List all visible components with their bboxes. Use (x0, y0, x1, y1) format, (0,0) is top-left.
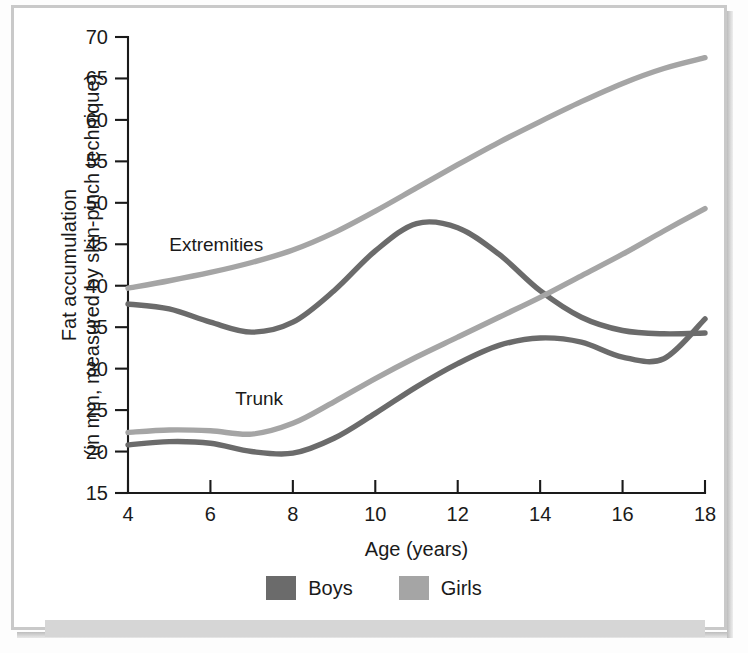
x-tick-label-16: 16 (611, 503, 633, 525)
legend-swatch-boys (266, 576, 296, 600)
legend-swatch-girls (399, 576, 429, 600)
series-curve-boys-trunk (128, 319, 705, 454)
y-tick-label-15: 15 (86, 482, 108, 504)
y-axis-title-line1: Fat accumulation (58, 189, 80, 341)
x-tick-label-14: 14 (529, 503, 551, 525)
bottom-gray-band (45, 620, 705, 637)
x-tick-label-12: 12 (447, 503, 469, 525)
legend-entry-boys[interactable]: Boys (266, 576, 352, 600)
chart-legend: BoysGirls (0, 572, 748, 604)
y-axis-title-line2: (in mm, measured by skin-pinch technique… (81, 74, 103, 456)
trunk-label: Trunk (235, 388, 283, 409)
y-tick-label-70: 70 (86, 26, 108, 48)
figure-root: 1520253035404550556065704681012141618 Ex… (0, 0, 748, 653)
axes: 1520253035404550556065704681012141618 (86, 26, 716, 525)
axis-lines (128, 37, 705, 493)
legend-label-girls: Girls (441, 578, 482, 598)
x-tick-label-10: 10 (364, 503, 386, 525)
axis-titles: Age (years)Fat accumulation(in mm, measu… (58, 74, 468, 560)
extremities-label: Extremities (169, 234, 263, 255)
legend-entry-girls[interactable]: Girls (399, 576, 482, 600)
x-axis-title: Age (years) (365, 538, 468, 560)
x-tick-label-6: 6 (205, 503, 216, 525)
x-tick-label-8: 8 (287, 503, 298, 525)
curves (128, 58, 705, 454)
line-chart: 1520253035404550556065704681012141618 Ex… (0, 0, 748, 600)
legend-label-boys: Boys (308, 578, 352, 598)
x-tick-label-4: 4 (122, 503, 133, 525)
x-tick-label-18: 18 (694, 503, 716, 525)
